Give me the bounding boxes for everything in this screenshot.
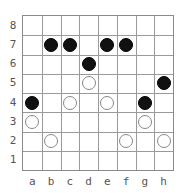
white-stone-a3[interactable] — [25, 115, 39, 129]
file-label: g — [135, 176, 154, 188]
grid-line-vertical — [154, 16, 155, 170]
rank-label: 5 — [8, 77, 18, 89]
game-board[interactable] — [22, 15, 174, 171]
black-stone-c7[interactable] — [63, 38, 77, 52]
file-label: f — [117, 176, 136, 188]
white-stone-e4[interactable] — [100, 96, 114, 110]
file-label: e — [98, 176, 117, 188]
grid-line-vertical — [117, 16, 118, 170]
rank-label: 1 — [8, 154, 18, 166]
white-stone-d5[interactable] — [82, 76, 96, 90]
black-stone-g4[interactable] — [138, 96, 152, 110]
black-stone-f7[interactable] — [119, 38, 133, 52]
rank-label: 4 — [8, 97, 18, 109]
file-label: d — [79, 176, 98, 188]
file-label: c — [60, 176, 79, 188]
black-stone-e7[interactable] — [100, 38, 114, 52]
grid-line-vertical — [136, 16, 137, 170]
white-stone-h2[interactable] — [157, 134, 171, 148]
rank-label: 3 — [8, 116, 18, 128]
rank-label: 6 — [8, 58, 18, 70]
grid-line-horizontal — [23, 112, 173, 113]
grid-line-horizontal — [23, 93, 173, 94]
grid-line-horizontal — [23, 151, 173, 152]
white-stone-c4[interactable] — [63, 96, 77, 110]
rank-label: 8 — [8, 20, 18, 32]
file-label: h — [154, 176, 173, 188]
black-stone-h5[interactable] — [157, 76, 171, 90]
rank-label: 7 — [8, 39, 18, 51]
file-label: b — [42, 176, 61, 188]
white-stone-f2[interactable] — [119, 134, 133, 148]
black-stone-b7[interactable] — [44, 38, 58, 52]
rank-label: 2 — [8, 135, 18, 147]
black-stone-d6[interactable] — [82, 57, 96, 71]
grid-line-horizontal — [23, 132, 173, 133]
black-stone-a4[interactable] — [25, 96, 39, 110]
file-label: a — [23, 176, 42, 188]
white-stone-g3[interactable] — [138, 115, 152, 129]
white-stone-b2[interactable] — [44, 134, 58, 148]
